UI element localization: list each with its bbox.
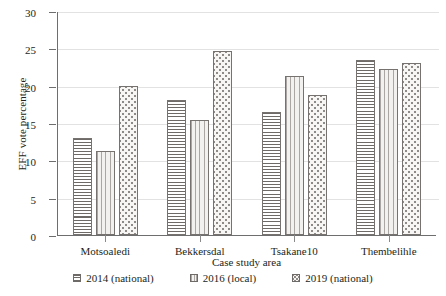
x-tick-motsoaledi	[105, 235, 106, 242]
legend-swatch-2014-icon	[73, 274, 81, 282]
y-tick-label-25: 25	[25, 44, 36, 56]
legend-label-2016: 2016 (local)	[203, 272, 256, 284]
y-tick-label-5: 5	[31, 194, 37, 206]
bar-bekkersdal-2019[interactable]	[213, 51, 232, 235]
x-tick-thembelihle	[389, 235, 390, 242]
plot-area: 30 25 20 15 10 5 0	[57, 12, 436, 236]
bar-group-tsakane10: Tsakane10	[247, 12, 342, 235]
bar-group-bekkersdal: Bekkersdal	[153, 12, 248, 235]
y-tick-25: 25	[49, 49, 56, 50]
bar-group-motsoaledi: Motsoaledi	[58, 12, 153, 235]
y-tick-label-10: 10	[25, 156, 36, 168]
y-tick-label-30: 30	[25, 7, 36, 19]
x-tick-bekkersdal	[200, 235, 201, 242]
legend-swatch-2016-icon	[190, 274, 198, 282]
legend-label-2019: 2019 (national)	[305, 272, 373, 284]
y-tick-label-0: 0	[31, 231, 37, 243]
x-tick-tsakane10	[294, 235, 295, 242]
y-tick-label-15: 15	[25, 119, 36, 131]
bar-group-thembelihle: Thembelihle	[342, 12, 437, 235]
y-tick-label-20: 20	[25, 82, 36, 94]
bar-motsoaledi-2014[interactable]	[73, 138, 92, 235]
legend-item-2016[interactable]: 2016 (local)	[190, 272, 256, 284]
bar-motsoaledi-2019[interactable]	[119, 86, 138, 235]
y-tick-20: 20	[49, 87, 56, 88]
bar-groups: Motsoaledi Bekkersdal Tsakane10	[58, 12, 436, 235]
legend-item-2019[interactable]: 2019 (national)	[292, 272, 373, 284]
bar-tsakane10-2014[interactable]	[262, 112, 281, 235]
bar-motsoaledi-2016[interactable]	[96, 151, 115, 235]
chart-legend: 2014 (national) 2016 (local) 2019 (natio…	[0, 272, 446, 284]
bar-thembelihle-2019[interactable]	[402, 63, 421, 235]
bar-thembelihle-2016[interactable]	[379, 69, 398, 236]
legend-swatch-2019-icon	[292, 274, 300, 282]
y-tick-0: 0	[49, 236, 56, 237]
legend-item-2014[interactable]: 2014 (national)	[73, 272, 154, 284]
bar-bekkersdal-2016[interactable]	[190, 120, 209, 235]
bar-tsakane10-2016[interactable]	[285, 76, 304, 235]
y-tick-15: 15	[49, 124, 56, 125]
x-axis-title: Case study area	[57, 256, 436, 268]
y-tick-5: 5	[49, 199, 56, 200]
chart-figure: EFF vote percentage 30 25 20 15 10 5 0	[0, 0, 446, 296]
bar-tsakane10-2019[interactable]	[308, 95, 327, 235]
legend-label-2014: 2014 (national)	[86, 272, 154, 284]
bar-bekkersdal-2014[interactable]	[167, 100, 186, 235]
bar-thembelihle-2014[interactable]	[356, 60, 375, 235]
y-tick-30: 30	[49, 12, 56, 13]
y-tick-10: 10	[49, 161, 56, 162]
